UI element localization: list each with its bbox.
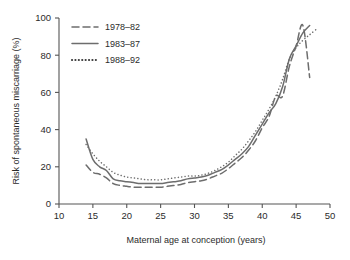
x-axis-ticks (59, 204, 330, 208)
legend-label-2: 1983–87 (105, 39, 140, 49)
y-axis-ticks (55, 18, 59, 204)
y-tick-label: 0 (46, 198, 51, 209)
data-series-group (86, 25, 316, 188)
y-tick-label: 20 (40, 161, 51, 172)
x-tick-label: 45 (291, 210, 302, 221)
x-tick-label: 30 (189, 210, 200, 221)
x-tick-label: 25 (155, 210, 166, 221)
y-tick-label: 100 (35, 12, 51, 23)
chart-legend: 1978–821983–871988–92 (72, 22, 140, 65)
x-tick-label: 40 (257, 210, 268, 221)
legend-label-1: 1978–82 (105, 22, 140, 32)
chart-container: 020406080100 101520253035404550 Risk of … (0, 0, 350, 260)
y-tick-label: 60 (40, 87, 51, 98)
y-tick-label: 40 (40, 124, 51, 135)
series-line-1 (86, 25, 310, 188)
axis-group (55, 18, 330, 208)
legend-label-3: 1988–92 (105, 55, 140, 65)
series-line-2 (86, 25, 310, 183)
x-tick-label: 20 (121, 210, 132, 221)
y-axis-tick-labels: 020406080100 (35, 12, 51, 209)
x-tick-label: 15 (88, 210, 99, 221)
y-axis-title: Risk of spontaneous miscarriage (%) (11, 37, 21, 184)
x-axis-title: Maternal age at conception (years) (126, 235, 265, 245)
x-tick-label: 35 (223, 210, 234, 221)
miscarriage-risk-line-chart: 020406080100 101520253035404550 Risk of … (0, 0, 350, 260)
y-tick-label: 80 (40, 50, 51, 61)
x-tick-label: 50 (325, 210, 336, 221)
x-tick-label: 10 (54, 210, 65, 221)
x-axis-tick-labels: 101520253035404550 (54, 210, 336, 221)
series-line-3 (86, 29, 316, 180)
